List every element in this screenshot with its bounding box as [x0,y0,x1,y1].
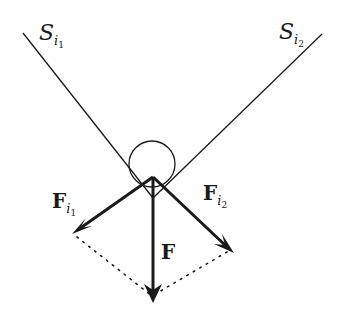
label-s-i2: Si2 [279,19,304,49]
label-f-i1: Fi1 [52,189,76,218]
force-arrow-f-i1 [72,177,153,234]
force-arrow-f [144,177,162,303]
label-s-i1: Si1 [39,20,64,50]
force-diagram: Si1 Si2 Fi1 Fi2 F [0,0,344,324]
surface-line-s-i1 [23,33,153,198]
label-f: F [161,240,175,264]
label-f-i2: Fi2 [203,181,227,210]
dotted-line-left [77,237,152,296]
surface-line-s-i2 [153,34,322,198]
